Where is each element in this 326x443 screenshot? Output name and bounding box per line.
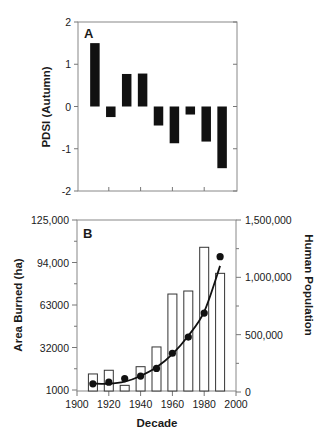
x-tick-label: 1920	[97, 398, 121, 410]
pdsi-bar	[170, 107, 180, 144]
figure: A 210-1-2 PDSI (Autumn) B 125,00094,0006…	[0, 0, 326, 443]
pdsi-bar	[138, 74, 148, 107]
x-tick-label: 1940	[129, 398, 153, 410]
panel-a-label: A	[84, 26, 94, 41]
right-y-tick-label: 500,000	[245, 329, 283, 341]
pdsi-bar	[154, 107, 164, 126]
y-tick-label: 2	[65, 16, 71, 28]
left-y-tick-label: 94,000	[37, 257, 69, 269]
pdsi-bar	[201, 107, 211, 142]
panel-b-left-y-axis-title: Area Burned (ha)	[12, 258, 24, 351]
pdsi-bar	[217, 107, 227, 169]
right-y-tick-label: 0	[245, 386, 251, 398]
pdsi-bar	[90, 43, 100, 106]
pdsi-bar	[106, 107, 116, 118]
y-tick-label: 0	[65, 101, 71, 113]
left-y-tick-label: 1000	[46, 384, 70, 396]
left-y-tick-label: 63000	[40, 299, 69, 311]
area-burned-bar	[216, 273, 225, 391]
population-point	[89, 380, 96, 387]
chart-canvas: A 210-1-2 PDSI (Autumn) B 125,00094,0006…	[0, 0, 326, 443]
area-burned-bar	[168, 294, 177, 391]
x-tick-label: 1980	[193, 398, 217, 410]
panel-b-left-y-axis: 125,00094,00063000320001000	[31, 214, 77, 396]
panel-a-y-axis-title: PDSI (Autumn)	[40, 66, 52, 147]
left-y-tick-label: 125,000	[31, 214, 69, 226]
population-point	[153, 365, 160, 372]
population-point	[169, 350, 176, 357]
right-y-tick-label: 1,500,000	[245, 214, 292, 226]
population-point	[217, 253, 224, 260]
panel-b-right-y-axis-title: Human Population	[303, 234, 315, 336]
panel-b-area-population-chart: B 125,00094,00063000320001000 1,500,0001…	[12, 214, 315, 429]
population-point	[185, 333, 192, 340]
left-y-tick-label: 32000	[40, 342, 69, 354]
y-tick-label: 1	[65, 58, 71, 70]
panel-b-right-y-axis: 1,500,0001,000,000500,0000	[236, 214, 292, 398]
pdsi-bar	[122, 74, 132, 107]
x-tick-label: 2000	[224, 398, 248, 410]
panel-b-x-axis: 190019201940196019802000	[65, 391, 248, 410]
right-y-tick-label: 1,000,000	[245, 271, 292, 283]
panel-b-x-axis-title: Decade	[137, 417, 178, 429]
y-tick-label: -1	[62, 143, 71, 155]
panel-a-bars	[90, 43, 227, 168]
population-point	[105, 379, 112, 386]
area-burned-bar	[120, 385, 129, 391]
x-tick-label: 1960	[161, 398, 185, 410]
population-point	[201, 310, 208, 317]
population-point	[137, 372, 144, 379]
pdsi-bar	[186, 107, 196, 115]
population-point	[121, 375, 128, 382]
y-tick-label: -2	[62, 185, 71, 197]
panel-b-label: B	[83, 226, 92, 241]
x-tick-label: 1900	[65, 398, 89, 410]
panel-a-x-axis	[109, 187, 204, 191]
panel-a-pdsi-chart: A 210-1-2 PDSI (Autumn)	[40, 16, 237, 197]
